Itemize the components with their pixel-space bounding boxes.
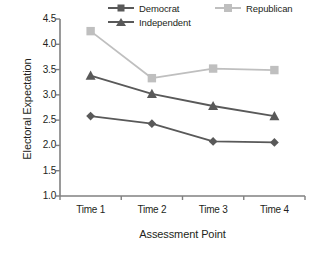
- x-tick-label: Time 1: [63, 204, 119, 215]
- x-axis-title: Assessment Point: [55, 228, 310, 240]
- x-tick-label: Time 3: [185, 204, 241, 215]
- x-tick-label: Time 4: [246, 204, 302, 215]
- x-tick-label: Time 2: [124, 204, 180, 215]
- line-chart: Democrat Republican Independent 1.01.52.…: [0, 0, 317, 253]
- y-axis-title: Electoral Expectation: [21, 24, 33, 194]
- x-axis-tick-labels: Time 1Time 2Time 3Time 4: [0, 0, 317, 253]
